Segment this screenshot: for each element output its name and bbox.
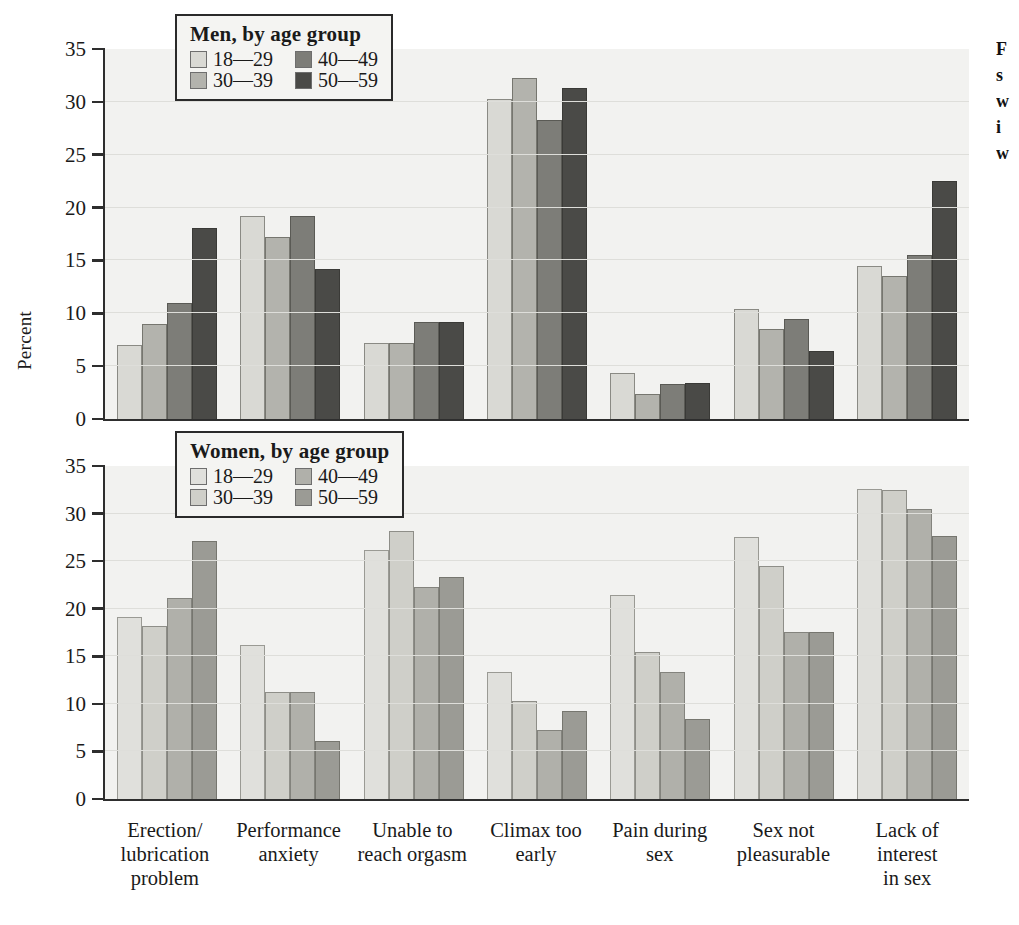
bar [389, 531, 414, 799]
bar [389, 343, 414, 419]
bar [439, 322, 464, 419]
bar-group [352, 49, 475, 419]
y-axis-tick-label: 25 [65, 551, 86, 572]
y-axis-tick [92, 259, 105, 262]
legend-item-women-40-49: 40—49 [295, 466, 378, 486]
legend-men: Men, by age group 18—29 40—49 30—39 [175, 14, 393, 101]
bar [734, 309, 759, 419]
bar [315, 269, 340, 419]
legend-item-women-50-59: 50—59 [295, 487, 378, 507]
bar [857, 266, 882, 419]
legend-label: 40—49 [318, 466, 378, 486]
legend-title-men: Men, by age group [190, 22, 378, 46]
bar [142, 626, 167, 799]
legend-swatch-icon [295, 51, 312, 68]
bar [192, 541, 217, 799]
y-axis-tick-label: 5 [76, 741, 87, 762]
bar [537, 730, 562, 799]
y-axis-tick [92, 101, 105, 104]
bar-groups-men [105, 49, 969, 419]
x-axis-category-label: Lack of interestin sex [845, 818, 969, 918]
bar [364, 550, 389, 799]
gridline [105, 259, 969, 260]
y-axis-tick-label: 0 [76, 789, 87, 810]
bar-group [105, 49, 228, 419]
bar [364, 343, 389, 419]
y-axis-tick [92, 512, 105, 515]
bar [265, 692, 290, 799]
y-axis-tick-label: 30 [65, 503, 86, 524]
y-axis-tick-label: 5 [76, 356, 87, 377]
bar [414, 322, 439, 419]
bar-group [599, 49, 722, 419]
y-axis-tick [92, 655, 105, 658]
bar [192, 228, 217, 419]
chart-figure: Percent 05101520253035 Men, by age group… [0, 0, 1019, 925]
bar [439, 577, 464, 799]
legend-item-men-40-49: 40—49 [295, 49, 378, 69]
y-axis-tick [92, 48, 105, 51]
y-axis-tick-label: 15 [65, 250, 86, 271]
gridline [105, 703, 969, 704]
y-axis-tick-label: 10 [65, 693, 86, 714]
y-axis-tick [92, 465, 105, 468]
legend-label: 18—29 [213, 466, 273, 486]
bar [562, 88, 587, 419]
bar [290, 692, 315, 799]
y-axis-tick [92, 798, 105, 801]
bar-group [722, 466, 845, 799]
bar [660, 384, 685, 419]
bar [610, 595, 635, 799]
legend-item-women-30-39: 30—39 [190, 487, 273, 507]
legend-swatch-icon [190, 72, 207, 89]
bar [414, 587, 439, 799]
bar [907, 509, 932, 799]
x-axis-category-label: Pain duringsex [598, 818, 722, 918]
bar [635, 652, 660, 799]
y-axis-tick [92, 312, 105, 315]
bar [167, 303, 192, 419]
legend-women: Women, by age group 18—29 40—49 30—3 [175, 431, 404, 518]
bar [685, 719, 710, 799]
bar [487, 672, 512, 799]
bar [784, 632, 809, 799]
gridline [105, 312, 969, 313]
y-axis-tick [92, 560, 105, 563]
bar [142, 324, 167, 419]
bar [117, 345, 142, 419]
y-axis-tick-label: 30 [65, 91, 86, 112]
gridline [105, 207, 969, 208]
y-axis-tick [92, 206, 105, 209]
legend-item-men-50-59: 50—59 [295, 70, 378, 90]
bar [512, 78, 537, 419]
bar [759, 329, 784, 419]
chart-panel-men: 05101520253035 Men, by age group 18—29 4… [0, 0, 1019, 435]
plot-area-men: 05101520253035 [103, 49, 969, 421]
bar [932, 181, 957, 419]
bar [882, 490, 907, 799]
x-axis-category-label: Unable toreach orgasm [350, 818, 474, 918]
bar-group [846, 49, 969, 419]
bar [784, 319, 809, 419]
bar [857, 489, 882, 799]
gridline [105, 560, 969, 561]
bar [932, 536, 957, 799]
x-axis-category-label: Sex notpleasurable [722, 818, 846, 918]
y-axis-tick [92, 703, 105, 706]
bar [265, 237, 290, 419]
legend-label: 50—59 [318, 487, 378, 507]
bar [759, 566, 784, 799]
bar [610, 373, 635, 420]
bar [635, 394, 660, 419]
gridline [105, 608, 969, 609]
y-axis-tick-label: 20 [65, 197, 86, 218]
bar [167, 598, 192, 799]
y-axis-tick-label: 10 [65, 303, 86, 324]
legend-title-women: Women, by age group [190, 439, 389, 463]
legend-swatch-icon [295, 489, 312, 506]
bar-group [599, 466, 722, 799]
gridline [105, 365, 969, 366]
y-axis-tick [92, 607, 105, 610]
legend-swatch-icon [295, 468, 312, 485]
bar [240, 645, 265, 799]
